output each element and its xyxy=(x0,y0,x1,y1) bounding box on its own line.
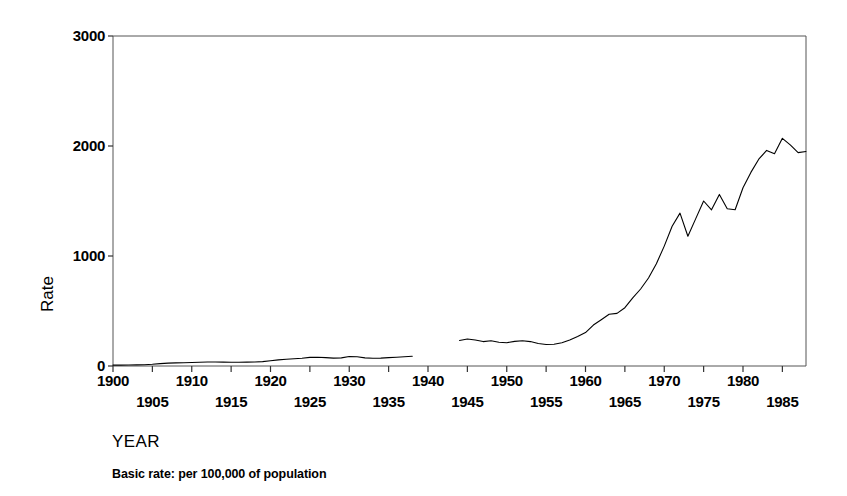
x-tick-label: 1955 xyxy=(519,393,573,410)
x-tick-label: 1980 xyxy=(716,372,770,389)
x-tick-label: 1905 xyxy=(125,393,179,410)
x-axis-title: YEAR xyxy=(112,432,160,452)
x-tick-label: 1920 xyxy=(244,372,298,389)
x-tick-label: 1925 xyxy=(283,393,337,410)
x-tick-label: 1930 xyxy=(322,372,376,389)
x-tick-label: 1900 xyxy=(86,372,140,389)
x-tick-label: 1975 xyxy=(677,393,731,410)
y-tick-label: 2000 xyxy=(39,137,105,154)
chart-caption: Basic rate: per 100,000 of population xyxy=(112,467,326,481)
series-segment-0 xyxy=(113,356,412,365)
x-tick-label: 1945 xyxy=(440,393,494,410)
x-tick-label: 1960 xyxy=(559,372,613,389)
axes-frame xyxy=(113,36,806,366)
y-tick-label: 3000 xyxy=(39,27,105,44)
x-tick-label: 1970 xyxy=(637,372,691,389)
chart-figure: 0100020003000 19001905191019151920192519… xyxy=(0,0,847,496)
x-tick-label: 1940 xyxy=(401,372,455,389)
x-tick-label: 1910 xyxy=(165,372,219,389)
data-series-line xyxy=(113,138,806,365)
plot-border xyxy=(113,36,806,366)
axis-tick-marks xyxy=(108,36,782,372)
x-tick-label: 1965 xyxy=(598,393,652,410)
x-tick-label: 1985 xyxy=(755,393,809,410)
line-chart-plot xyxy=(0,0,847,496)
y-axis-title: Rate xyxy=(38,232,58,312)
x-tick-label: 1935 xyxy=(362,393,416,410)
x-tick-label: 1950 xyxy=(480,372,534,389)
series-segment-1 xyxy=(460,138,807,344)
x-tick-label: 1915 xyxy=(204,393,258,410)
